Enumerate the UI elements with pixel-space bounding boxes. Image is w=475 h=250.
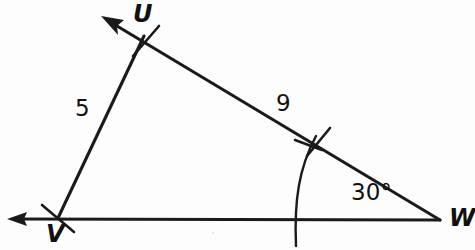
side-length-label-uw: 9 [276, 92, 291, 115]
angle-arc-w [296, 136, 316, 246]
arrowhead-left-icon [7, 212, 27, 226]
ray-wv-line [20, 219, 440, 220]
vertex-label-v: V [46, 222, 65, 246]
paper-speck [212, 232, 214, 234]
geometry-canvas [0, 0, 475, 250]
side-length-label-uv: 5 [75, 97, 90, 120]
vertex-label-w: W [449, 206, 475, 230]
tick-mark-u [133, 26, 159, 56]
angle-measure-label-w: 30° [351, 181, 392, 204]
arrowhead-upleft-icon [101, 16, 124, 35]
vertex-label-u: U [133, 2, 153, 26]
geometry-figure: U V W 5 9 30° [0, 0, 475, 250]
segment-vu-line [58, 36, 144, 218]
